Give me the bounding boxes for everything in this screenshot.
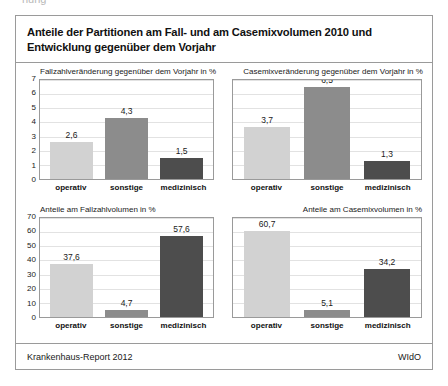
- bar-sonstige[interactable]: 4,3: [105, 118, 148, 179]
- bar-group: 57,6: [160, 218, 203, 317]
- chart-panel-anteile-fallzahlvolumen: Anteile am Fallzahlvolumen in % 01020304…: [16, 201, 224, 339]
- bar-operativ[interactable]: 3,7: [244, 127, 291, 179]
- bar-operativ[interactable]: 2,6: [50, 142, 93, 179]
- y-axis-0: 01234567: [20, 79, 38, 180]
- bar-medizinisch[interactable]: 1,5: [160, 158, 203, 179]
- chart-grid: Fallzahlveränderung gegenüber dem Vorjah…: [16, 63, 432, 339]
- y-tick-label: 40: [27, 256, 36, 264]
- bar-operativ[interactable]: 37,6: [50, 264, 93, 317]
- bar-group: 1,3: [364, 80, 411, 179]
- chart-area-2: 010203040506070 37,64,757,6 operativsons…: [20, 217, 216, 318]
- x-tick-label-medizinisch: medizinisch: [161, 319, 204, 332]
- bar-value-label: 34,2: [364, 257, 411, 267]
- plot-2: 37,64,757,6: [39, 217, 214, 318]
- bar-group: 6,5: [304, 80, 351, 179]
- y-tick-label: 4: [32, 118, 36, 126]
- bar-value-label: 57,6: [160, 224, 203, 234]
- bar-group: 5,1: [304, 218, 351, 317]
- bar-value-label: 4,7: [105, 298, 148, 308]
- chart-panel-anteile-casemixvolumen: Anteile am Casemixvolumen in % 60,75,134…: [224, 201, 432, 339]
- figure-footer: Krankenhaus-Report 2012 WIdO: [16, 343, 432, 369]
- bar-value-label: 4,3: [105, 106, 148, 116]
- chart-area-1: 3,76,51,3 operativsonstigemedizinisch: [228, 79, 424, 180]
- y-tick-label: 2: [32, 147, 36, 155]
- bar-operativ[interactable]: 60,7: [244, 231, 291, 317]
- x-axis-0: operativsonstigemedizinisch: [39, 181, 214, 194]
- chart-area-3: 60,75,134,2 operativsonstigemedizinisch: [228, 217, 424, 318]
- y-tick-label: 10: [27, 300, 36, 308]
- x-tick-label-operativ: operativ: [243, 181, 290, 194]
- x-tick-label-medizinisch: medizinisch: [364, 181, 411, 194]
- y-tick-label: 60: [27, 227, 36, 235]
- footer-publisher: WIdO: [398, 352, 421, 362]
- y-tick-label: 30: [27, 271, 36, 279]
- x-tick-label-operativ: operativ: [243, 319, 290, 332]
- bar-group: 2,6: [50, 80, 93, 179]
- x-tick-label-medizinisch: medizinisch: [364, 319, 411, 332]
- x-tick-label-sonstige: sonstige: [105, 319, 148, 332]
- y-tick-label: 0: [32, 176, 36, 184]
- y-tick-label: 20: [27, 285, 36, 293]
- chart-panel-fallzahlveraenderung: Fallzahlveränderung gegenüber dem Vorjah…: [16, 63, 224, 201]
- bars-2: 37,64,757,6: [40, 218, 213, 317]
- x-axis-3: operativsonstigemedizinisch: [232, 319, 422, 332]
- x-axis-1: operativsonstigemedizinisch: [232, 181, 422, 194]
- y-tick-label: 50: [27, 242, 36, 250]
- chart-title-0: Fallzahlveränderung gegenüber dem Vorjah…: [20, 67, 216, 78]
- bar-group: 3,7: [244, 80, 291, 179]
- bars-0: 2,64,31,5: [40, 80, 213, 179]
- chart-title-1: Casemixveränderung gegenüber dem Vorjahr…: [228, 67, 424, 78]
- bar-group: 1,5: [160, 80, 203, 179]
- y-tick-label: 0: [32, 314, 36, 322]
- y-axis-2: 010203040506070: [20, 217, 38, 318]
- y-tick-label: 3: [32, 133, 36, 141]
- chart-title-2: Anteile am Fallzahlvolumen in %: [20, 205, 216, 216]
- bar-sonstige[interactable]: 6,5: [304, 87, 351, 179]
- bar-group: 4,3: [105, 80, 148, 179]
- x-tick-label-operativ: operativ: [49, 319, 92, 332]
- y-tick-label: 6: [32, 89, 36, 97]
- bar-group: 34,2: [364, 218, 411, 317]
- bar-value-label: 37,6: [50, 252, 93, 262]
- y-tick-label: 5: [32, 104, 36, 112]
- x-axis-2: operativsonstigemedizinisch: [39, 319, 214, 332]
- figure-container: Anteile der Partitionen am Fall- und am …: [15, 15, 433, 370]
- bars-1: 3,76,51,3: [233, 80, 421, 179]
- plot-0: 2,64,31,5: [39, 79, 214, 180]
- y-tick-label: 7: [32, 75, 36, 83]
- bar-sonstige[interactable]: 5,1: [304, 310, 351, 317]
- bar-value-label: 60,7: [244, 219, 291, 229]
- x-tick-label-sonstige: sonstige: [303, 319, 350, 332]
- bar-value-label: 5,1: [304, 298, 351, 308]
- bar-group: 60,7: [244, 218, 291, 317]
- plot-3: 60,75,134,2: [232, 217, 422, 318]
- chart-panel-casemixveraenderung: Casemixveränderung gegenüber dem Vorjahr…: [224, 63, 432, 201]
- x-tick-label-medizinisch: medizinisch: [161, 181, 204, 194]
- bar-group: 37,6: [50, 218, 93, 317]
- bar-value-label: 1,3: [364, 149, 411, 159]
- cutoff-text: nung: [22, 0, 82, 5]
- bar-value-label: 1,5: [160, 146, 203, 156]
- bar-group: 4,7: [105, 218, 148, 317]
- cutoff-text-artifact: nung: [22, 0, 82, 6]
- bar-medizinisch[interactable]: 57,6: [160, 236, 203, 317]
- bars-3: 60,75,134,2: [233, 218, 421, 317]
- plot-1: 3,76,51,3: [232, 79, 422, 180]
- y-tick-label: 1: [32, 162, 36, 170]
- bar-sonstige[interactable]: 4,7: [105, 310, 148, 317]
- x-tick-label-operativ: operativ: [49, 181, 92, 194]
- bar-medizinisch[interactable]: 34,2: [364, 269, 411, 317]
- bar-value-label: 3,7: [244, 115, 291, 125]
- x-tick-label-sonstige: sonstige: [303, 181, 350, 194]
- chart-area-0: 01234567 2,64,31,5 operativsonstigemediz…: [20, 79, 216, 180]
- y-tick-label: 70: [27, 213, 36, 221]
- figure-title: Anteile der Partitionen am Fall- und am …: [27, 25, 421, 54]
- footer-source: Krankenhaus-Report 2012: [27, 352, 133, 362]
- bar-value-label: 2,6: [50, 130, 93, 140]
- chart-title-3: Anteile am Casemixvolumen in %: [228, 205, 424, 216]
- x-tick-label-sonstige: sonstige: [105, 181, 148, 194]
- figure-header: Anteile der Partitionen am Fall- und am …: [16, 16, 432, 63]
- bar-medizinisch[interactable]: 1,3: [364, 161, 411, 179]
- bar-value-label: 6,5: [304, 79, 351, 85]
